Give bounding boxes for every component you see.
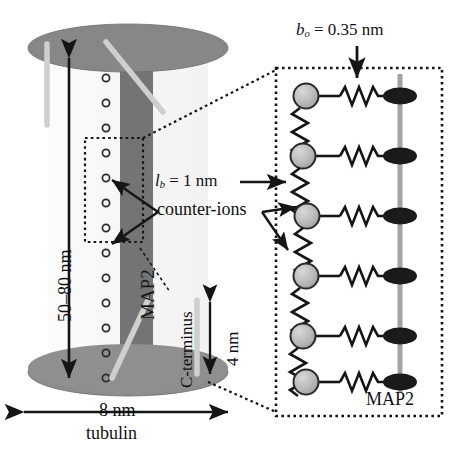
counter-ions-label: counter-ions bbox=[157, 200, 247, 218]
diameter-label: 8 nm bbox=[99, 401, 136, 419]
tubulin-label: tubulin bbox=[86, 424, 137, 442]
bond-length-value: = 0.35 nm bbox=[314, 20, 384, 39]
map2-cylinder-label: MAP2 bbox=[138, 269, 157, 320]
c-terminus-label: C-terminus bbox=[178, 312, 195, 389]
height-label: 50–80 nm bbox=[56, 249, 74, 322]
c-terminus-length-label: 4 nm bbox=[224, 332, 241, 366]
bond-length-subscript: o bbox=[305, 28, 310, 39]
bond-length-label: bo = 0.35 nm bbox=[296, 21, 384, 40]
counter-ion-pointer-right bbox=[262, 207, 296, 250]
bjerrum-subscript: b bbox=[160, 179, 165, 190]
bjerrum-value: = 1 nm bbox=[169, 171, 217, 190]
bond-length-symbol: b bbox=[296, 20, 305, 39]
bjerrum-length-label: lb = 1 nm bbox=[155, 172, 218, 191]
map2-panel-label: MAP2 bbox=[366, 390, 414, 408]
figure-root: bo = 0.35 nm lb = 1 nm counter-ions 50–8… bbox=[0, 0, 451, 465]
